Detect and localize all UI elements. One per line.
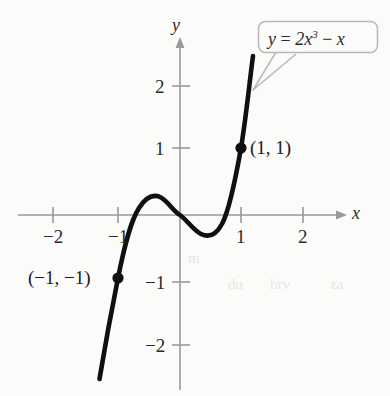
x-tick-label--2: −2 [43, 227, 63, 246]
point-neg1-neg1 [112, 272, 123, 283]
y-axis-arrow-icon [176, 37, 185, 48]
y-tick-label-1: 1 [155, 139, 165, 158]
graph-figure: m du hrv za x y −2 −1 1 2 [0, 0, 390, 396]
equation-rhs: x [337, 29, 345, 49]
curve-cubic [100, 56, 254, 379]
x-tick-label-1: 1 [236, 227, 246, 246]
y-tick-label-2: 2 [155, 77, 165, 96]
y-axis-label: y [172, 16, 180, 34]
point-label-1-1: (1, 1) [250, 138, 291, 157]
equation-equals: = [281, 29, 291, 49]
point-label-neg1-neg1: (−1, −1) [28, 268, 91, 287]
equation-coefficient: 2x [295, 29, 312, 49]
x-axis-arrow-icon [336, 211, 347, 220]
point-1-1 [235, 142, 246, 153]
x-tick-label--1: −1 [108, 227, 128, 246]
callout-equation: y = 2x3 − x [268, 29, 345, 48]
equation-lhs: y [268, 29, 276, 49]
plot-canvas [0, 0, 390, 396]
y-tick-label--2: −2 [145, 336, 165, 355]
equation-minus: − [322, 29, 332, 49]
callout-tail [253, 52, 296, 90]
y-tick-label--1: −1 [145, 273, 165, 292]
x-axis-label: x [352, 204, 360, 222]
x-tick-label-2: 2 [298, 227, 308, 246]
